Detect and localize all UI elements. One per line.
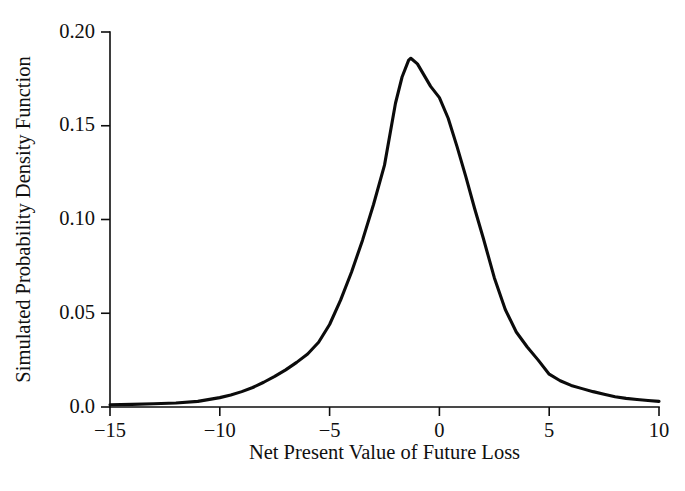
x-tick-label-1: −10	[204, 419, 236, 441]
x-tick-label-5: 10	[649, 419, 670, 441]
x-tick-label-2: −5	[319, 419, 341, 441]
y-tick-label-3: 0.15	[59, 113, 95, 135]
density-curve-0	[110, 58, 659, 405]
x-axis-title: Net Present Value of Future Loss	[249, 441, 520, 463]
x-tick-label-3: 0	[434, 419, 444, 441]
x-tick-label-4: 5	[544, 419, 554, 441]
y-tick-label-0: 0.0	[69, 395, 95, 417]
y-axis-title: Simulated Probability Density Function	[12, 56, 35, 382]
density-plot: 0.00.050.100.150.20−15−10−50510Net Prese…	[0, 0, 685, 491]
chart-figure: 0.00.050.100.150.20−15−10−50510Net Prese…	[0, 0, 685, 491]
y-tick-label-4: 0.20	[59, 20, 95, 42]
x-tick-label-0: −15	[94, 419, 126, 441]
y-tick-label-1: 0.05	[59, 301, 95, 323]
y-tick-label-2: 0.10	[59, 207, 95, 229]
